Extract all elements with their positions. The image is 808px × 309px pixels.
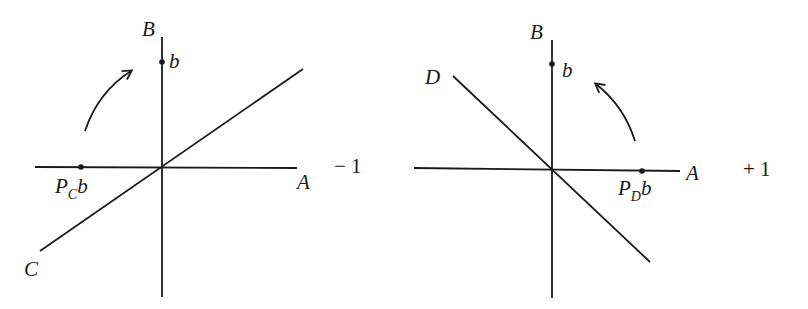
- right-rotation-arrow-icon: [596, 84, 635, 141]
- right-diagram: [414, 40, 680, 298]
- right-projection-label: PDb: [618, 178, 651, 199]
- left-horizontal-axis: [35, 167, 297, 168]
- right-axis-b-label: B: [530, 22, 543, 43]
- projection-p: P: [618, 176, 631, 200]
- left-rotation-arrow-icon: [85, 71, 131, 131]
- left-eigen-sign: − 1: [334, 156, 362, 177]
- left-point-b: [159, 59, 165, 65]
- left-axis-a-label: A: [297, 172, 310, 193]
- right-axis-a-label: A: [686, 163, 699, 184]
- left-projection-label: PCb: [55, 176, 88, 197]
- right-point-b: [549, 61, 555, 67]
- projection-b: b: [77, 174, 88, 198]
- left-projection-point: [78, 164, 84, 170]
- right-projection-point: [639, 168, 645, 174]
- diagram-canvas: [0, 0, 808, 309]
- line-c: [40, 69, 303, 251]
- left-point-b-label: b: [169, 51, 180, 72]
- right-eigen-sign: + 1: [743, 159, 771, 180]
- line-d-label: D: [425, 67, 440, 88]
- projection-p: P: [55, 174, 68, 198]
- projection-b: b: [641, 176, 652, 200]
- right-point-b-label: b: [562, 60, 573, 81]
- left-axis-b-label: B: [142, 19, 155, 40]
- line-c-label: C: [24, 259, 38, 280]
- projection-subscript-d: D: [631, 189, 641, 204]
- projection-subscript-c: C: [68, 187, 77, 202]
- left-diagram: [35, 37, 303, 297]
